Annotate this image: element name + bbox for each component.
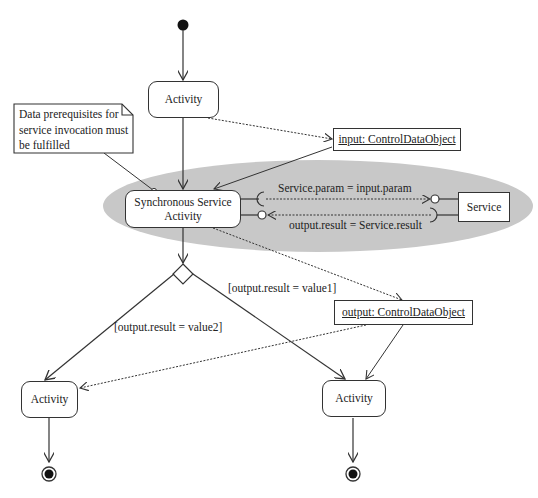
decision-node — [173, 264, 193, 284]
result-binding-label: output.result = Service.result — [289, 219, 422, 233]
note-line-3: be fulfilled — [19, 138, 129, 154]
activity-right-label: Activity — [335, 391, 373, 405]
service-label: Service — [467, 200, 501, 214]
output-object-node[interactable]: output: ControlDataObject — [334, 300, 473, 325]
activity-node-right[interactable]: Activity — [322, 380, 386, 417]
diagram-canvas — [0, 0, 538, 498]
synchronous-service-activity-node[interactable]: Synchronous Service Activity — [125, 190, 241, 228]
activity-label: Activity — [165, 92, 203, 106]
input-object-node[interactable]: input: ControlDataObject — [333, 128, 461, 151]
activity-node-left[interactable]: Activity — [21, 381, 78, 418]
initial-node — [178, 20, 189, 31]
sync-activity-label-line1: Synchronous Service — [134, 195, 231, 209]
param-binding-label: Service.param = input.param — [278, 182, 412, 196]
input-object-label: input: ControlDataObject — [338, 132, 455, 146]
activity-node-top[interactable]: Activity — [148, 81, 219, 118]
note-line-2: service invocation must — [19, 123, 129, 139]
sync-activity-label-line2: Activity — [164, 209, 202, 223]
activity-left-label: Activity — [31, 392, 69, 406]
output-object-label: output: ControlDataObject — [342, 305, 465, 319]
note-data-prerequisites: Data prerequisites for service invocatio… — [14, 104, 134, 154]
guard-value2-label: [output.result = value2] — [114, 321, 222, 335]
guard-value1-label: [output.result = value1] — [228, 282, 336, 296]
note-line-1: Data prerequisites for — [19, 107, 129, 123]
service-node[interactable]: Service — [458, 192, 510, 222]
